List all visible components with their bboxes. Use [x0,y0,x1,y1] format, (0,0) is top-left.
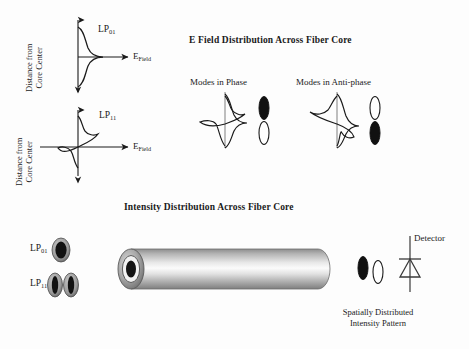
lp11-x-axis-label: EField [133,142,151,151]
lp11-y-axis-label: Distance from Core Center [14,138,34,186]
lp01-intensity-base: LP [30,243,41,253]
efield-section-title: E Field Distribution Across Fiber Core [189,36,352,46]
spatially-distributed-intensity-pattern [358,257,383,284]
intensity-pattern-caption-line2: Intensity Pattern [350,318,406,328]
lp11-intensity-icon [48,273,79,297]
lp01-x-base: E [133,51,139,61]
lp01-intensity-label: LP01 [30,244,48,254]
fiber-core [126,260,136,277]
modes-in-phase-plot [200,92,269,148]
lp11-y-axis-line1: Distance from [14,138,24,186]
output-lobe-hollow [373,261,383,284]
intensity-pattern-caption: Spatially Distributed Intensity Pattern [318,307,438,328]
lp01-mode-label: LP01 [98,25,116,35]
output-lobe-filled [358,257,368,280]
lp11-intensity-base: LP [30,278,41,288]
lp01-intensity-icon [52,238,70,262]
in-phase-lobe-bottom-hollow [259,122,269,145]
modes-in-anti-phase-label: Modes in Anti-phase [296,78,371,87]
lp11-x-sub: Field [139,146,152,152]
fiber-mode-diagram [0,0,469,349]
lp11-plot [40,110,128,184]
lp01-x-axis-label: EField [133,52,151,61]
intensity-pattern-caption-line1: Spatially Distributed [343,307,414,317]
lp01-mode-base: LP [98,24,109,34]
lp01-y-axis-line1: Distance from [24,44,34,92]
modes-in-anti-phase-plot [310,92,380,148]
lp11-axis-arrow-down [75,177,81,184]
anti-phase-lobe-top-hollow [370,97,380,120]
lp11-y-axis-line2: Core Center [24,141,34,182]
detector-label: Detector [414,234,445,243]
intensity-section-title: Intensity Distribution Across Fiber Core [124,203,294,213]
lp11-mode-label: LP11 [99,111,116,121]
in-phase-lobe-top-filled [259,97,269,120]
optical-fiber-cylinder [118,249,330,289]
lp11-intensity-label: LP11 [30,279,47,289]
anti-phase-lp11-curve [310,96,354,146]
lp11-x-base: E [133,141,139,151]
lp11-intensity-sub: 11 [41,282,47,289]
lp01-x-sub: Field [139,56,152,62]
photodetector-symbol [399,236,421,292]
modes-in-phase-label: Modes in Phase [190,78,247,87]
anti-phase-lp01-curve [337,94,359,148]
lp01-y-axis-line2: Core Center [34,47,44,88]
lp11-mode-base: LP [99,110,110,120]
fiber-body [131,249,330,289]
lp01-mode-sub: 01 [109,28,115,35]
lp11-mode-sub: 11 [110,114,116,121]
lp01-y-axis-label: Distance from Core Center [24,44,44,92]
lp01-intensity-sub: 01 [41,247,47,254]
anti-phase-lobe-bottom-filled [370,122,380,145]
